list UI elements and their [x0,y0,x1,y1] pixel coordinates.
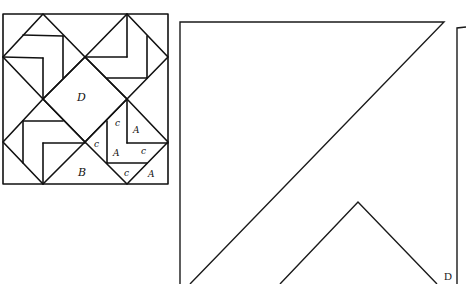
label-center-d: D [76,91,86,104]
bottom-left-pieces [23,121,85,184]
label-piece-c: c [94,139,99,149]
top-right-pieces [85,14,147,78]
label-piece-c: c [124,168,129,178]
template-label-d: D [444,270,452,282]
template-pieces: D [180,22,466,284]
template-triangle-partial [280,202,437,284]
template-triangle-b [180,22,444,284]
quilt-block-diagram: D B c A c A c c A [3,14,168,184]
label-piece-a: A [132,125,140,135]
diamond-bottom-left [3,99,85,184]
label-piece-a: A [112,148,120,158]
label-piece-c: c [115,118,120,128]
template-square-d-edge [457,27,466,284]
label-piece-c: c [141,146,146,156]
label-corner-b: B [77,166,86,179]
diamond-top-left [3,14,85,99]
quilt-pattern-figure: D B c A c A c c A D [0,0,469,284]
label-piece-a: A [147,169,155,179]
